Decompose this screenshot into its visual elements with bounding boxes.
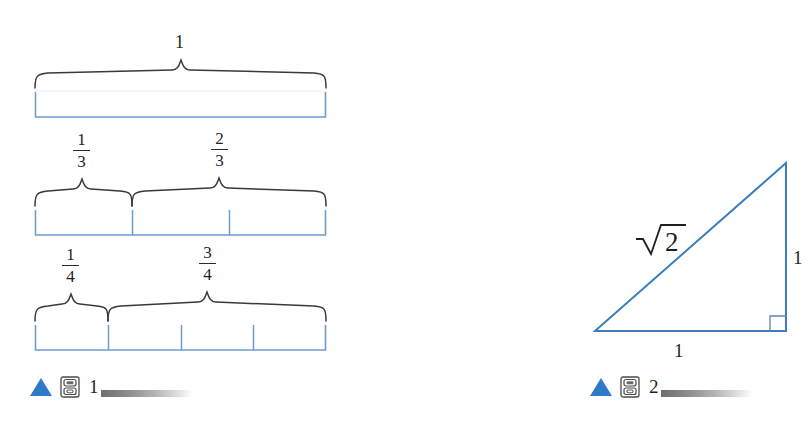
label-one-quarter-numerator: 1 <box>66 246 75 264</box>
figure-1-number: 1 <box>89 376 99 398</box>
thirds-bar-outline <box>36 210 326 235</box>
figure-2-caption-row: 2 <box>590 376 753 398</box>
media-cabinet-icon <box>60 376 80 398</box>
figure-1-caption-rule <box>101 390 193 397</box>
figure-2-caption-rule <box>661 390 753 397</box>
fraction-rule <box>62 265 79 266</box>
fraction-rule <box>211 149 228 150</box>
brace-whole <box>35 60 326 88</box>
sqrt-radicand: 2 <box>665 227 679 257</box>
label-three-quarters-numerator: 3 <box>203 244 212 262</box>
sqrt-glyph-icon: 2 <box>634 219 694 259</box>
quarters-bar-group <box>35 292 326 350</box>
brace-one-quarter <box>35 294 108 321</box>
whole-bar-group <box>35 60 326 117</box>
label-triangle-base: 1 <box>674 340 684 362</box>
right-triangle-svg <box>580 140 808 370</box>
figure-1-caption-row: 1 <box>30 376 193 398</box>
fraction-rule <box>73 150 90 151</box>
label-two-thirds-numerator: 2 <box>215 130 224 148</box>
label-triangle-vertical: 1 <box>793 247 803 269</box>
right-angle-marker-icon <box>770 316 786 331</box>
blue-triangle-icon <box>590 378 612 396</box>
figure-canvas: 1 1 3 2 3 1 4 3 4 <box>0 0 808 437</box>
label-whole-one: 1 <box>175 32 184 53</box>
fraction-rule <box>199 263 216 264</box>
label-one-quarter: 1 4 <box>62 246 79 285</box>
label-one-third-numerator: 1 <box>77 131 86 149</box>
figure-2-number: 2 <box>649 376 659 398</box>
label-three-quarters-denominator: 4 <box>203 265 212 283</box>
brace-three-quarters <box>108 292 326 321</box>
brace-one-third <box>35 179 132 206</box>
brace-two-thirds <box>132 178 326 206</box>
media-cabinet-icon <box>620 376 640 398</box>
whole-bar-outline <box>36 92 326 117</box>
blue-triangle-icon <box>30 378 52 396</box>
label-one-third: 1 3 <box>73 131 90 170</box>
label-hypotenuse-sqrt2: 2 <box>634 219 694 259</box>
quarters-bar-outline <box>36 325 326 350</box>
label-one-quarter-denominator: 4 <box>66 267 75 285</box>
fraction-bars-svg <box>0 10 400 380</box>
label-one-third-denominator: 3 <box>77 152 86 170</box>
label-two-thirds: 2 3 <box>211 130 228 169</box>
label-three-quarters: 3 4 <box>199 244 216 283</box>
label-two-thirds-denominator: 3 <box>215 151 224 169</box>
thirds-bar-group <box>35 178 326 235</box>
